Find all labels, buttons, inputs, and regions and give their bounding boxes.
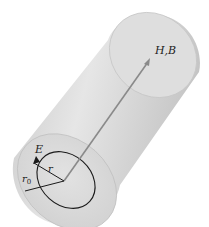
label-hb: H,B xyxy=(154,44,176,57)
cylinder-diagram: H,B E r r0 xyxy=(0,0,209,227)
label-e: E xyxy=(34,143,43,156)
